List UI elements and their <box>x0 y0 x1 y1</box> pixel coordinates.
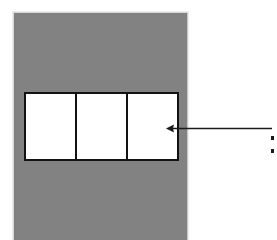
figure-canvas <box>0 0 277 240</box>
cut-off-bullet-list <box>271 136 277 166</box>
box-cell-1 <box>26 94 77 159</box>
leader-arrow-head <box>166 125 174 133</box>
bullet-marker-2 <box>271 149 274 153</box>
three-box-row <box>24 92 179 161</box>
leader-arrow <box>164 119 276 139</box>
box-cell-2 <box>77 94 128 159</box>
bullet-marker-1 <box>271 136 274 140</box>
